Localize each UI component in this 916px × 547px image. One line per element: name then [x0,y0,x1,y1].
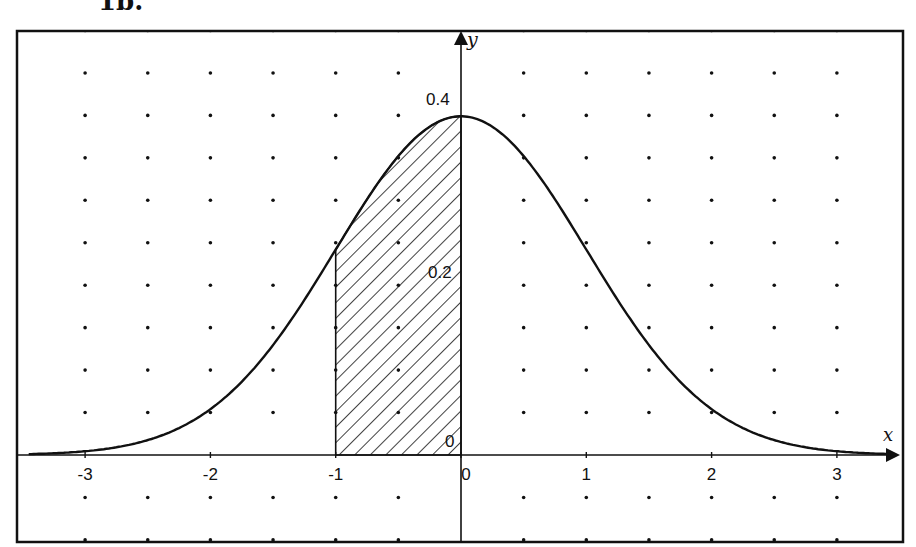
x-axis-label: x [883,424,893,445]
x-tick-label: -1 [328,465,343,484]
y-label-0-2: 0.2 [428,263,452,282]
y-label-0-4: 0.4 [426,90,450,109]
x-tick-label: -3 [78,465,93,484]
x-tick-label: 3 [832,465,841,484]
normal-curve-plot: y x 0.4 0.2 0 -3-2-10123 [0,0,916,547]
x-tick-label: -2 [203,465,218,484]
y-axis-label: y [466,28,478,50]
x-tick-label: 1 [582,465,591,484]
x-tick-label: 2 [707,465,716,484]
x-tick-label: 0 [461,465,470,484]
y-label-0: 0 [445,432,454,451]
